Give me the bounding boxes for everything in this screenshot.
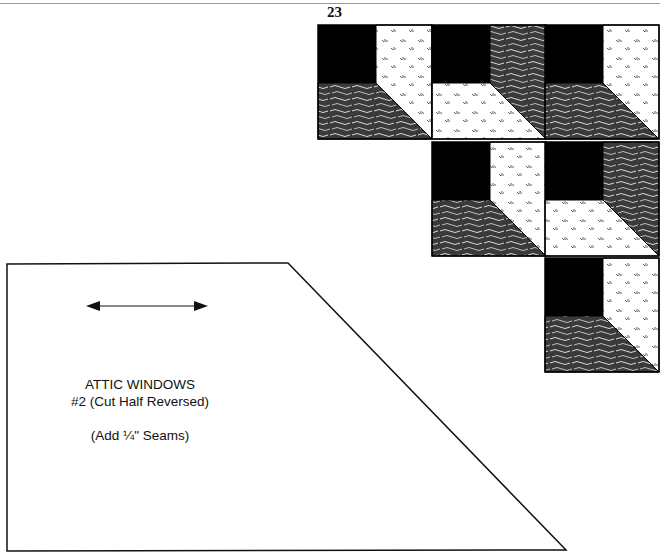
quilt-block [432,25,546,139]
template-title: ATTIC WINDOWS [60,376,220,393]
template-subtitle: #2 (Cut Half Reversed) [60,393,220,410]
seam-note: (Add ¼" Seams) [60,427,220,444]
quilt-block [545,25,659,139]
quilt-block [545,258,659,372]
quilt-diagram [318,25,659,372]
quilt-block [318,25,432,139]
quilt-block [545,142,659,256]
grain-arrow-icon [86,301,208,311]
pattern-artwork [0,0,660,557]
quilt-block [432,142,546,256]
